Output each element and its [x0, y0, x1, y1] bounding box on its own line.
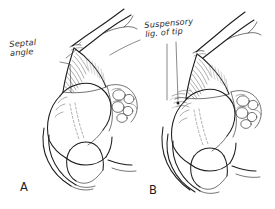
panel-a-sesamoid-cartilages: [107, 85, 137, 131]
panel-a-alar-cartilage: [48, 83, 112, 158]
panel-a-dome-lines: [70, 103, 84, 139]
anatomy-figure: Septal angle Suspensory lig. of tip A B: [0, 0, 275, 209]
panel-b-lip-crease: [232, 166, 260, 177]
anatomy-line-drawing: [0, 0, 275, 209]
panel-a-upper-lateral-cartilage: [63, 48, 106, 93]
panel-label-a: A: [20, 180, 28, 194]
panel-label-b: B: [149, 183, 157, 197]
panel-b-sesamoid-cartilages: [231, 91, 261, 137]
panel-b-drawing: [162, 12, 261, 193]
panel-a-alar-rim: [43, 128, 95, 190]
panel-b-alar-cartilage: [172, 89, 236, 164]
panel-a-lip-crease: [108, 160, 136, 171]
annotation-septal-angle: Septal angle: [9, 38, 37, 59]
panel-b-alar-rim: [162, 127, 219, 193]
panel-b-dome-lines: [194, 109, 208, 145]
panel-a-drawing: [43, 9, 137, 190]
leader-line-suspensory-ligament: [110, 40, 178, 100]
panel-b-dorsum-outline: [196, 12, 261, 58]
